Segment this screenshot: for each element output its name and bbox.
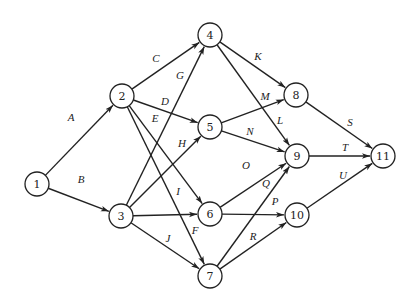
node-label: 1 <box>34 178 41 191</box>
edge-label-d: D <box>160 95 169 107</box>
node-9: 9 <box>285 144 309 168</box>
edge-arrow <box>306 102 373 149</box>
edge-arrow <box>126 47 204 206</box>
node-2: 2 <box>110 84 134 108</box>
edge-j <box>131 223 199 269</box>
edges <box>45 42 372 269</box>
node-label: 3 <box>118 210 125 223</box>
edge-label-m: M <box>259 90 270 102</box>
edge-m <box>221 100 284 123</box>
edge-label-r: R <box>249 230 257 242</box>
edge-label-h: H <box>177 137 187 149</box>
edge-label-e: E <box>151 112 159 124</box>
edge-arrow <box>221 100 284 123</box>
edge-label-q: Q <box>262 177 270 189</box>
node-label: 11 <box>376 150 390 163</box>
node-label: 7 <box>207 270 214 283</box>
edge-arrow <box>132 42 199 89</box>
edge-label-k: K <box>253 50 262 62</box>
edge-c <box>132 42 199 89</box>
edge-arrow <box>129 136 200 207</box>
edge-arrow <box>222 214 284 215</box>
edge-label-t: T <box>342 141 349 153</box>
node-5: 5 <box>198 115 222 139</box>
node-label: 6 <box>207 208 214 221</box>
node-11: 11 <box>371 144 395 168</box>
node-label: 2 <box>119 90 126 103</box>
edge-arrow <box>131 223 199 269</box>
edge-arrow <box>217 167 289 267</box>
edge-arrow <box>220 42 285 88</box>
node-label: 9 <box>294 150 301 163</box>
edge-label-s: S <box>347 116 353 128</box>
edge-label-l: L <box>276 114 283 126</box>
node-1: 1 <box>25 172 49 196</box>
edge-arrow <box>45 105 113 175</box>
edge-label-c: C <box>152 52 160 64</box>
edge-label-o: O <box>242 159 250 171</box>
node-label: 10 <box>290 209 304 222</box>
edge-label-i: I <box>175 185 181 197</box>
edge-label-n: N <box>245 125 254 137</box>
node-7: 7 <box>198 264 222 288</box>
edge-arrow <box>133 214 197 215</box>
edge-g <box>126 47 204 206</box>
edge-p <box>222 214 284 215</box>
edge-label-a: A <box>67 111 75 123</box>
node-4: 4 <box>198 23 222 47</box>
node-label: 8 <box>293 89 300 102</box>
edge-b <box>48 188 109 211</box>
node-label: 4 <box>207 29 214 42</box>
edge-label-b: B <box>78 173 85 185</box>
node-6: 6 <box>198 202 222 226</box>
network-diagram: ABCDEFGHIJKLMNOPQRSTU 1234567891011 <box>0 0 416 306</box>
edge-arrow <box>48 188 109 211</box>
edge-label-j: J <box>166 232 172 244</box>
edge-h <box>129 136 200 207</box>
edge-label-p: P <box>271 195 279 207</box>
edge-k <box>220 42 285 88</box>
edge-s <box>306 102 373 149</box>
edge-label-f: F <box>191 224 199 236</box>
edge-a <box>45 105 113 175</box>
edge-label-g: G <box>176 69 184 81</box>
edge-i <box>133 214 197 215</box>
node-3: 3 <box>109 204 133 228</box>
node-label: 5 <box>207 121 214 134</box>
edge-q <box>217 167 289 267</box>
node-10: 10 <box>285 203 309 227</box>
node-8: 8 <box>284 83 308 107</box>
edge-label-u: U <box>339 169 348 181</box>
